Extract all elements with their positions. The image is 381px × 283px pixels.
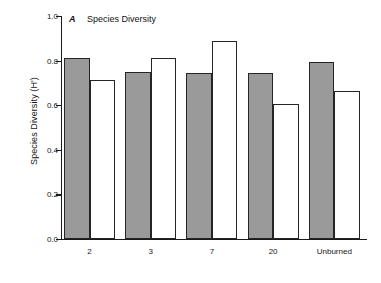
y-tick-label: 0.4	[47, 145, 58, 154]
plot-area: A Species Diversity 0.00.20.40.60.81.0 2…	[61, 16, 367, 239]
y-tick-label: 0.2	[47, 190, 58, 199]
x-axis-line	[61, 239, 367, 240]
bar-open-20	[273, 104, 299, 239]
bar-shaded-7	[186, 73, 212, 239]
y-tick-label: 1.0	[47, 12, 58, 21]
panel-title: Species Diversity	[87, 14, 156, 24]
y-tick-label: 0.6	[47, 101, 58, 110]
figure-species-diversity: Species Diversity (H') A Species Diversi…	[0, 0, 381, 283]
bar-open-3	[151, 58, 177, 239]
x-tick-label-3: 3	[148, 247, 152, 256]
y-tick-label: 0.0	[47, 235, 58, 244]
bar-shaded-2	[64, 58, 90, 239]
x-tick-label-20: 20	[269, 247, 278, 256]
bar-open-2	[90, 80, 116, 239]
bar-shaded-Unburned	[309, 62, 335, 239]
x-tick-label-7: 7	[210, 247, 214, 256]
bar-shaded-20	[248, 73, 274, 239]
panel-letter: A	[69, 14, 76, 24]
x-tick-label-Unburned: Unburned	[317, 247, 352, 256]
y-tick-label: 0.8	[47, 56, 58, 65]
x-tick-label-2: 2	[87, 247, 91, 256]
bar-shaded-3	[125, 72, 151, 239]
y-axis-title: Species Diversity (H')	[29, 41, 39, 201]
bar-open-7	[212, 41, 238, 239]
y-axis-line	[61, 16, 62, 239]
bar-open-Unburned	[334, 91, 360, 239]
